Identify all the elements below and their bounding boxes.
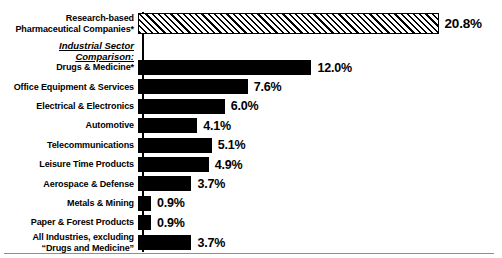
bar-area: 4.1% <box>138 116 502 135</box>
row-label: Automotive <box>0 120 138 131</box>
chart-row: Electrical & Electronics6.0% <box>0 97 502 116</box>
bar <box>138 79 248 94</box>
bar-value: 0.9% <box>151 196 185 210</box>
row-label: Leisure Time Products <box>0 159 138 170</box>
bar-value: 3.7% <box>191 177 225 191</box>
chart-row: Automotive4.1% <box>0 116 502 135</box>
row-label: Aerospace & Defense <box>0 179 138 190</box>
row-label: Paper & Forest Products <box>0 217 138 228</box>
bar <box>138 157 209 172</box>
row-label: Metals & Mining <box>0 198 138 209</box>
chart-row: Paper & Forest Products0.9% <box>0 213 502 232</box>
bar-value: 4.1% <box>197 119 231 133</box>
bar-value: 4.9% <box>209 158 243 172</box>
bar-value-highlight: 20.8% <box>439 16 482 31</box>
bar-area: 0.9% <box>138 194 502 213</box>
bar-area-highlight: 20.8% <box>138 12 502 35</box>
bar <box>138 138 212 153</box>
bar-area: 6.0% <box>138 97 502 116</box>
section-header-bar-area <box>138 44 502 58</box>
bar-value: 5.1% <box>212 138 246 152</box>
row-label: Drugs & Medicine* <box>0 62 138 73</box>
chart-row: Drugs & Medicine*12.0% <box>0 58 502 77</box>
row-label: Telecommunications <box>0 140 138 151</box>
bar-area: 12.0% <box>138 58 502 77</box>
chart-row: All Industries, excluding “Drugs and Med… <box>0 231 502 255</box>
row-label: All Industries, excluding “Drugs and Med… <box>0 232 138 253</box>
chart-row: Office Equipment & Services7.6% <box>0 77 502 96</box>
chart-row: Metals & Mining0.9% <box>0 194 502 213</box>
row-label-highlight: Research-based Pharmaceutical Companies* <box>0 13 138 34</box>
bar-area: 3.7% <box>138 174 502 193</box>
chart-row-highlight: Research-based Pharmaceutical Companies*… <box>0 12 502 35</box>
bar-value: 3.7% <box>191 236 225 250</box>
bar-value: 12.0% <box>311 61 351 75</box>
bar-area: 4.9% <box>138 155 502 174</box>
bar <box>138 215 151 230</box>
bar-area: 3.7% <box>138 231 502 255</box>
bar-chart: Research-based Pharmaceutical Companies*… <box>0 0 502 258</box>
row-label: Office Equipment & Services <box>0 82 138 93</box>
chart-row: Telecommunications5.1% <box>0 136 502 155</box>
chart-row: Aerospace & Defense3.7% <box>0 174 502 193</box>
section-header-row: Industrial Sector Comparison: <box>0 44 502 58</box>
row-label: Electrical & Electronics <box>0 101 138 112</box>
bar-area: 5.1% <box>138 136 502 155</box>
chart-row: Leisure Time Products4.9% <box>0 155 502 174</box>
bar <box>138 60 311 75</box>
bar-value: 0.9% <box>151 216 185 230</box>
bar-value: 7.6% <box>248 80 282 94</box>
bar <box>138 235 191 250</box>
bar <box>138 176 191 191</box>
bar <box>138 99 225 114</box>
bar <box>138 196 151 211</box>
bar-highlight <box>138 13 439 34</box>
bar-value: 6.0% <box>225 99 259 113</box>
bar-area: 0.9% <box>138 213 502 232</box>
bar-area: 7.6% <box>138 77 502 96</box>
bar <box>138 118 197 133</box>
